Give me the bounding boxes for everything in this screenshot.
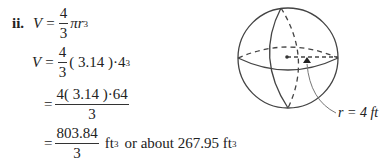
sphere-figure xyxy=(0,0,386,167)
radius-label: r = 4 ft xyxy=(338,105,378,121)
